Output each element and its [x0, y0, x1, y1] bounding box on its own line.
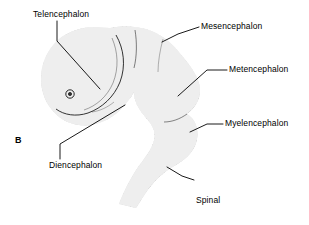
leader-spinal-cord: [167, 167, 194, 180]
brain-outline-stroke: [41, 27, 200, 208]
figure-panel-b: Telencephalon Mesencephalon Metencephalo…: [0, 0, 309, 225]
label-spinal-cord-line1: Spinal: [196, 195, 220, 205]
label-spinal-cord: Spinal cord: [196, 175, 220, 225]
label-mesencephalon: Mesencephalon: [201, 21, 262, 31]
leader-mesencephalon: [162, 27, 199, 42]
label-metencephalon: Metencephalon: [229, 64, 288, 74]
label-myelencephalon: Myelencephalon: [225, 118, 288, 128]
optic-vesicle-center: [68, 92, 71, 95]
label-diencephalon: Diencephalon: [49, 160, 102, 170]
panel-letter-b: B: [15, 135, 22, 145]
brain-vesicle-illustration: [0, 0, 309, 225]
label-telencephalon: Telencephalon: [33, 9, 89, 19]
